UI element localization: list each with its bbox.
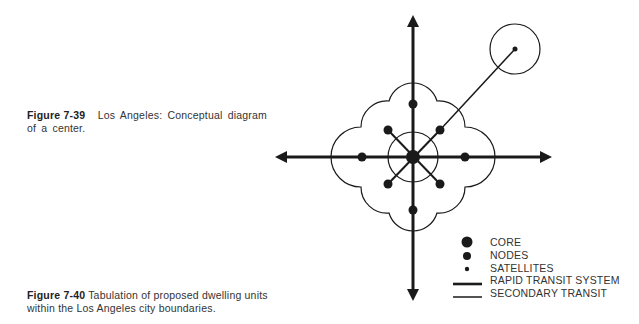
- legend-nodes-symbol: [463, 252, 471, 260]
- legend-item-secondary-transit: SECONDARY TRANSIT: [490, 287, 620, 300]
- arrow-down-icon: [407, 289, 419, 301]
- arrow-left-icon: [275, 151, 287, 163]
- satellite-dot: [513, 47, 518, 52]
- legend-item-rapid-transit: RAPID TRANSIT SYSTEM: [490, 274, 620, 287]
- legend-item-nodes: NODES: [490, 249, 620, 262]
- legend-item-core: CORE: [490, 236, 620, 249]
- arrow-right-icon: [540, 151, 552, 163]
- core-dot: [406, 150, 420, 164]
- legend: CORE NODES SATELLITES RAPID TRANSIT SYST…: [490, 236, 620, 300]
- legend-core-symbol: [462, 237, 473, 248]
- legend-satellites-symbol: [465, 267, 469, 271]
- arrow-up-icon: [407, 15, 419, 27]
- secondary-transit-links: [388, 49, 515, 184]
- legend-item-satellites: SATELLITES: [490, 262, 620, 275]
